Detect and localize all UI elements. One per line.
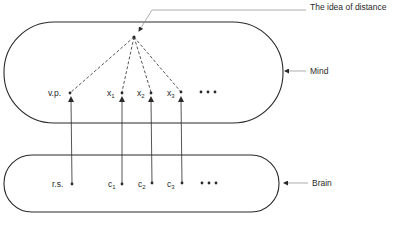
brain-label: Brain [312,178,332,188]
label-rs: r.s. [52,179,63,189]
label-x3: x3 [167,88,175,99]
mind-brain-diagram: v.p. x1 x2 x3 r.s. c1 c2 c3 Mind Brain T… [0,0,408,225]
idea-of-distance-label: The idea of distance [310,2,387,12]
label-x1: x1 [107,88,115,99]
label-c1: c1 [108,179,116,190]
dashed-connections [70,37,181,93]
mind-label: Mind [310,66,329,76]
idea-leader-line [139,10,306,31]
mind-region [4,22,283,123]
label-vp: v.p. [48,88,61,98]
brain-to-mind-arrows [71,99,182,184]
label-c3: c3 [167,179,175,190]
label-c2: c2 [138,179,146,190]
label-x2: x2 [137,88,145,99]
